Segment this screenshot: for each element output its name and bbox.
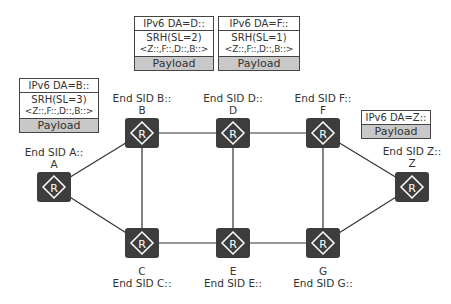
srh-header: SRH(SL=3): [20, 93, 98, 105]
packet-at-f: IPv6 DA=F:: SRH(SL=1) <Z::,F::,D::,B::> …: [218, 16, 300, 71]
svg-text:R: R: [138, 128, 146, 141]
node-name: D: [203, 104, 263, 116]
node-label-f: End SID F:: F: [295, 92, 352, 116]
node-name: A: [25, 158, 84, 170]
ipv6-da: IPv6 DA=B::: [20, 79, 98, 93]
router-g[interactable]: R: [306, 228, 340, 258]
svg-text:R: R: [229, 238, 237, 251]
sid-label: End SID B::: [113, 92, 172, 104]
router-f[interactable]: R: [306, 118, 340, 148]
router-icon: R: [306, 118, 340, 148]
node-label-d: End SID D:: D: [203, 92, 263, 116]
router-e[interactable]: R: [216, 228, 250, 258]
packet-at-b: IPv6 DA=B:: SRH(SL=3) <Z::,F::,D::,B::> …: [19, 78, 99, 133]
node-name: C: [113, 265, 172, 277]
svg-text:R: R: [50, 182, 58, 195]
node-name: G: [293, 265, 353, 277]
segment-list: <Z::,F::,D::,B::>: [219, 43, 299, 57]
payload: Payload: [20, 119, 98, 132]
segment-list: <Z::,F::,D::,B::>: [20, 105, 98, 119]
svg-text:R: R: [319, 128, 327, 141]
node-name: B: [113, 104, 172, 116]
router-z[interactable]: R: [395, 172, 429, 202]
svg-text:R: R: [319, 238, 327, 251]
svg-text:R: R: [138, 238, 146, 251]
router-icon: R: [37, 172, 71, 202]
sid-label: End SID A::: [25, 146, 84, 158]
router-icon: R: [125, 118, 159, 148]
sid-label: End SID D::: [203, 92, 263, 104]
router-icon: R: [306, 228, 340, 258]
router-icon: R: [216, 228, 250, 258]
router-icon: R: [395, 172, 429, 202]
router-c[interactable]: R: [125, 228, 159, 258]
router-b[interactable]: R: [125, 118, 159, 148]
srh-header: SRH(SL=2): [135, 31, 213, 43]
node-label-b: End SID B:: B: [113, 92, 172, 116]
node-name: E: [204, 265, 262, 277]
sid-label: End SID Z::: [383, 145, 442, 157]
node-name: F: [295, 104, 352, 116]
node-label-e: E End SID E::: [204, 265, 262, 289]
payload: Payload: [219, 57, 299, 70]
ipv6-da: IPv6 DA=F::: [219, 17, 299, 31]
svg-text:R: R: [408, 182, 416, 195]
packet-at-z: IPv6 DA=Z:: Payload: [361, 110, 431, 139]
node-label-c: C End SID C::: [113, 265, 172, 289]
srh-header: SRH(SL=1): [219, 31, 299, 43]
sid-label: End SID C::: [113, 277, 172, 289]
svg-text:R: R: [229, 128, 237, 141]
payload: Payload: [135, 57, 213, 70]
sid-label: End SID F::: [295, 92, 352, 104]
packet-at-d: IPv6 DA=D:: SRH(SL=2) <Z::,F::,D::,B::> …: [134, 16, 214, 71]
ipv6-da: IPv6 DA=Z::: [362, 111, 430, 125]
router-d[interactable]: R: [216, 118, 250, 148]
ipv6-da: IPv6 DA=D::: [135, 17, 213, 31]
node-label-g: G End SID G::: [293, 265, 353, 289]
router-icon: R: [125, 228, 159, 258]
node-name: Z: [383, 157, 442, 169]
router-icon: R: [216, 118, 250, 148]
node-label-a: End SID A:: A: [25, 146, 84, 170]
node-label-z: End SID Z:: Z: [383, 145, 442, 169]
payload: Payload: [362, 125, 430, 138]
segment-list: <Z::,F::,D::,B::>: [135, 43, 213, 57]
sid-label: End SID E::: [204, 277, 262, 289]
sid-label: End SID G::: [293, 277, 353, 289]
router-a[interactable]: R: [37, 172, 71, 202]
